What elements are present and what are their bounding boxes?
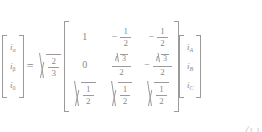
radical-body: 1 2 [118,82,133,107]
fraction: 1 2 [156,84,167,107]
output-vector-entry-beta: iβ [7,57,19,76]
fraction-numerator: 1 [157,26,168,38]
fraction-numerator: 2 [48,56,59,68]
radical-hook-icon [115,54,120,63]
subscript-b: B [190,66,194,72]
fraction-two-thirds: 2 3 [48,56,59,79]
input-vector-entry-a: iA [184,38,197,57]
radical-body: 1 2 [154,82,169,107]
fraction-numerator: 1 [83,84,94,96]
subscript-alpha: α [13,47,16,53]
fraction-numerator: 3 [153,53,172,67]
minus-sign: − [148,32,157,42]
matrix-value: 1 [82,32,87,42]
matrix-cell-r2c2: 3 2 [112,53,131,78]
fraction: 3 2 [153,53,172,78]
matrix-cell-r3c1: 1 2 [74,82,96,107]
fraction-denominator: 2 [83,96,94,107]
radical-hook-icon [39,54,46,79]
clarke-matrix-bracket: 1 − 1 2 − 1 2 0 [64,21,179,112]
fraction: 1 2 [120,26,131,49]
fraction: 3 2 [112,53,131,78]
fraction: 1 2 [83,84,94,107]
subscript-a: A [190,47,194,53]
clipped-next-equation-fragment: ⎛1 1 [244,126,260,132]
equals-sign: = [24,60,37,72]
input-vector: iA iB iC [184,38,197,95]
radical-hook-icon [147,82,154,107]
input-vector-entry-b: iB [184,57,197,76]
matrix-cell-r1c1: 1 [82,26,87,48]
clarke-matrix: 1 − 1 2 − 1 2 0 [69,24,174,109]
fraction-denominator: 2 [157,67,168,78]
fraction: 1 2 [157,26,168,49]
scalar-coefficient: 2 3 [36,54,64,79]
radical-sign-icon: 1 2 [147,82,169,107]
fraction-denominator: 2 [157,38,168,49]
fraction-denominator: 2 [156,96,167,107]
output-vector-entry-zero: i0 [7,76,19,95]
radical-sqrt-three-icon: 3 [115,54,128,63]
matrix-cell-r1c2: − 1 2 [112,26,131,49]
subscript-zero: 0 [13,85,16,91]
radicand: 3 [120,54,128,63]
radical-sign-icon: 2 3 [39,54,61,79]
radical-hook-icon [156,54,161,63]
matrix-cell-r2c3: − 3 2 [144,53,172,78]
output-vector: iα iβ i0 [7,38,19,95]
matrix-cell-r3c2: 1 2 [111,82,133,107]
radical-sign-icon: 1 2 [111,82,133,107]
input-vector-entry-c: iC [184,76,197,95]
fraction-denominator: 2 [116,67,127,78]
radical-body: 1 2 [81,82,96,107]
fraction-numerator: 3 [112,53,131,67]
radicand: 3 [161,54,169,63]
matrix-cell-r2c1: 0 [82,54,87,76]
fraction-numerator: 1 [120,26,131,38]
radical-hook-icon [111,82,118,107]
minus-sign: − [144,60,153,70]
input-vector-bracket: iA iB iC [179,35,202,98]
matrix-value: 0 [82,60,87,70]
radical-hook-icon [74,82,81,107]
minus-sign: − [112,32,121,42]
matrix-cell-r1c3: − 1 2 [148,26,167,49]
fraction: 1 2 [120,84,131,107]
subscript-beta: β [13,66,16,72]
radical-body: 2 3 [46,54,61,79]
radical-sign-icon: 1 2 [74,82,96,107]
fraction-numerator: 1 [120,84,131,96]
fraction-denominator: 2 [120,96,131,107]
fraction-numerator: 1 [156,84,167,96]
subscript-c: C [189,85,193,91]
clarke-transformation-equation: iα iβ i0 = 2 3 1 − [0,0,262,132]
fraction-denominator: 3 [48,68,59,79]
matrix-cell-r3c3: 1 2 [147,82,169,107]
output-vector-entry-alpha: iα [7,38,19,57]
output-vector-bracket: iα iβ i0 [2,35,24,98]
radical-sqrt-three-icon: 3 [156,54,169,63]
fraction-denominator: 2 [120,38,131,49]
